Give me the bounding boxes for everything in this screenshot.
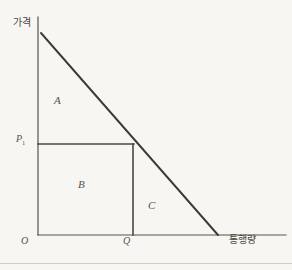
region-label-c: C (148, 200, 155, 211)
page-bottom-rule (0, 263, 292, 264)
origin-label: O (21, 236, 28, 246)
price-subscript: 1 (22, 139, 25, 146)
region-label-a: A (54, 95, 61, 106)
region-label-b: B (78, 179, 85, 190)
figure-canvas: 가격 통행량 P1 O Q A B C (0, 0, 292, 270)
quantity-axis-point-label: Q (123, 236, 130, 246)
price-axis-point-label: P1 (16, 134, 25, 147)
demand-curve-diagram (0, 0, 292, 270)
x-axis-label: 통행량 (229, 235, 255, 245)
y-axis-label: 가격 (13, 18, 31, 28)
demand-curve-line (41, 33, 218, 235)
